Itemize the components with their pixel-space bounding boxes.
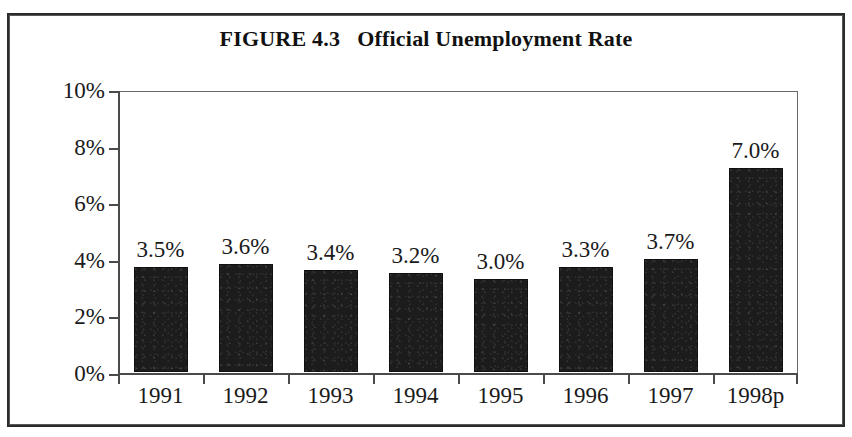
- x-axis-category-label: 1996: [563, 383, 609, 409]
- bar: [389, 273, 443, 372]
- bar: [644, 259, 698, 372]
- plot-top-rule: [118, 91, 798, 92]
- y-axis-tick-mark: [109, 374, 118, 376]
- y-axis-tick-mark: [109, 148, 118, 150]
- x-axis-category-label: 1994: [393, 383, 439, 409]
- bar: [304, 270, 358, 372]
- bar: [729, 168, 783, 372]
- plot-right-rule: [797, 91, 798, 374]
- bar-value-label: 3.7%: [647, 229, 695, 255]
- y-axis-tick-mark: [109, 204, 118, 206]
- x-axis-category-label: 1995: [478, 383, 524, 409]
- y-axis-tick-mark: [109, 91, 118, 93]
- y-axis-tick-mark: [109, 261, 118, 263]
- bar: [219, 264, 273, 372]
- bar-value-label: 3.3%: [562, 237, 610, 263]
- bar-value-label: 3.5%: [137, 237, 185, 263]
- bar-value-label: 3.0%: [477, 249, 525, 275]
- bar: [134, 267, 188, 372]
- y-axis-tick-label: 0%: [74, 361, 105, 387]
- bar-value-label: 3.2%: [392, 243, 440, 269]
- y-axis-tick-label: 4%: [74, 248, 105, 274]
- plot-area: 0%2%4%6%8%10% 3.5%3.6%3.4%3.2%3.0%3.3%3.…: [118, 91, 798, 374]
- bar-value-label: 3.6%: [222, 234, 270, 260]
- figure-container: FIGURE 4.3 Official Unemployment Rate 0%…: [0, 0, 852, 437]
- y-axis-tick-label: 10%: [63, 78, 105, 104]
- x-axis-category-label: 1997: [648, 383, 694, 409]
- x-axis-labels: 19911992199319941995199619971998p: [118, 383, 798, 415]
- x-axis-category-label: 1991: [138, 383, 184, 409]
- y-axis-tick-label: 2%: [74, 304, 105, 330]
- y-axis-tick-label: 6%: [74, 191, 105, 217]
- chart-title: FIGURE 4.3 Official Unemployment Rate: [0, 26, 852, 52]
- bar: [559, 267, 613, 372]
- bar-value-label: 3.4%: [307, 240, 355, 266]
- x-axis-category-label: 1992: [223, 383, 269, 409]
- x-axis-category-label: 1998p: [727, 383, 785, 409]
- y-axis-line: [118, 91, 120, 375]
- x-axis-category-label: 1993: [308, 383, 354, 409]
- bar: [474, 279, 528, 372]
- y-axis-tick-mark: [109, 317, 118, 319]
- bar-value-label: 7.0%: [732, 138, 780, 164]
- y-axis-tick-label: 8%: [74, 135, 105, 161]
